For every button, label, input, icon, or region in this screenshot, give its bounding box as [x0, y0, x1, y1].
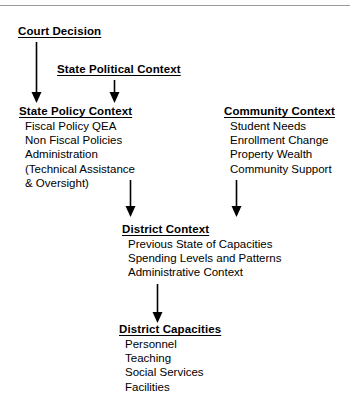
list-item: Facilities [125, 380, 221, 394]
list-item: Previous State of Capacities [128, 237, 281, 251]
node-community-context: Community Context Student Needs Enrollme… [224, 104, 335, 176]
arrow-court-decision-to-state-policy-context [31, 42, 42, 104]
list-item: Property Wealth [230, 147, 335, 161]
diagram-canvas: Court Decision State Political Context S… [0, 0, 350, 410]
node-title-state-policy-context: State Policy Context [19, 104, 135, 118]
list-item: Administrative Context [128, 265, 281, 279]
list-item: Fiscal Policy QEA [25, 119, 135, 133]
node-items-state-policy-context: Fiscal Policy QEA Non Fiscal Policies Ad… [25, 119, 135, 190]
node-title-community-context: Community Context [224, 104, 335, 118]
list-item: Spending Levels and Patterns [128, 251, 281, 265]
list-item: Administration [25, 147, 135, 161]
node-district-context: District Context Previous State of Capac… [122, 222, 281, 280]
node-title-court-decision: Court Decision [18, 24, 101, 38]
node-title-district-capacities: District Capacities [119, 322, 221, 336]
arrow-state-political-context-to-state-policy-context [109, 80, 120, 104]
node-title-state-political-context: State Political Context [57, 62, 181, 76]
list-item: & Oversight) [25, 176, 135, 190]
node-title-district-context: District Context [122, 222, 281, 236]
list-item: Enrollment Change [230, 133, 335, 147]
list-item: Social Services [125, 365, 221, 379]
node-state-political-context: State Political Context [57, 62, 181, 76]
list-item: Teaching [125, 351, 221, 365]
arrow-community-context-to-district-context [231, 180, 242, 218]
list-item: (Technical Assistance [25, 162, 135, 176]
node-court-decision: Court Decision [18, 24, 101, 38]
list-item: Student Needs [230, 119, 335, 133]
list-item: Personnel [125, 337, 221, 351]
node-items-district-capacities: Personnel Teaching Social Services Facil… [125, 337, 221, 394]
list-item: Non Fiscal Policies [25, 133, 135, 147]
arrow-district-context-to-district-capacities [152, 284, 163, 324]
arrow-state-policy-context-to-district-context [125, 180, 136, 218]
node-items-district-context: Previous State of Capacities Spending Le… [128, 237, 281, 280]
node-items-community-context: Student Needs Enrollment Change Property… [230, 119, 335, 176]
node-state-policy-context: State Policy Context Fiscal Policy QEA N… [19, 104, 135, 190]
list-item: Community Support [230, 162, 335, 176]
node-district-capacities: District Capacities Personnel Teaching S… [119, 322, 221, 394]
top-divider-rule [0, 5, 350, 6]
